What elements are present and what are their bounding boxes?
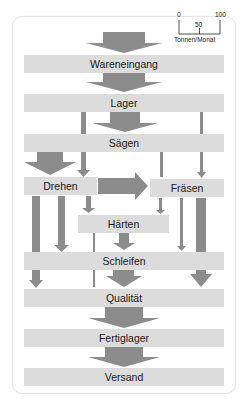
flow-arrow-fertiglager-versand (88, 347, 160, 367)
node-label: Drehen (43, 180, 77, 192)
node-label: Härten (108, 218, 140, 230)
flow-arrow-input-wareneingang (86, 32, 162, 53)
flow-arrow-haerten-schleifen (119, 233, 129, 243)
node-label: Fertiglager (99, 332, 149, 344)
scale-legend: 0 50 100 Tonnen/Monat (170, 10, 234, 50)
flow-arrow-saegen-fraesen (160, 152, 163, 177)
node-label: Schleifen (102, 255, 145, 267)
flow-arrow-drehen-haerten (86, 196, 91, 208)
node-versand: Versand (24, 368, 224, 386)
scale-tick-100: 100 (215, 11, 226, 18)
scale-tick-0: 0 (177, 11, 181, 18)
flow-arrow-fraesen-haerten (159, 198, 162, 210)
flow-arrow-saegen-drehen (24, 152, 76, 175)
flow-arrow-lager-saegen (92, 112, 158, 132)
node-fraesen: Fräsen (150, 179, 224, 197)
node-label: Versand (105, 371, 144, 383)
flow-arrow-fraesen-schleifen (180, 198, 183, 246)
flow-arrow-drehen-fraesen (98, 172, 148, 200)
node-label: Qualität (106, 292, 142, 304)
node-haerten: Härten (78, 215, 169, 233)
scale-tick-50: 50 (195, 21, 202, 28)
node-label: Fräsen (171, 182, 204, 194)
scale-unit: Tonnen/Monat (174, 36, 215, 43)
flow-arrow-qualitaet-fertiglager (88, 307, 160, 328)
node-schleifen: Schleifen (24, 252, 224, 270)
node-lager: Lager (24, 94, 224, 112)
node-label: Sägen (109, 137, 139, 149)
node-drehen: Drehen (24, 177, 97, 195)
flow-arrow-schleifen-qualitaet (106, 270, 142, 287)
node-qualitaet: Qualität (24, 289, 224, 307)
node-label: Wareneingang (90, 58, 158, 70)
node-wareneingang: Wareneingang (24, 55, 224, 73)
flow-arrow-wareneingang-lager (86, 73, 162, 92)
node-fertiglager: Fertiglager (24, 329, 224, 347)
flow-arrow-drehen-schleifen (58, 196, 65, 245)
node-saegen: Sägen (24, 134, 224, 152)
node-label: Lager (111, 97, 138, 109)
